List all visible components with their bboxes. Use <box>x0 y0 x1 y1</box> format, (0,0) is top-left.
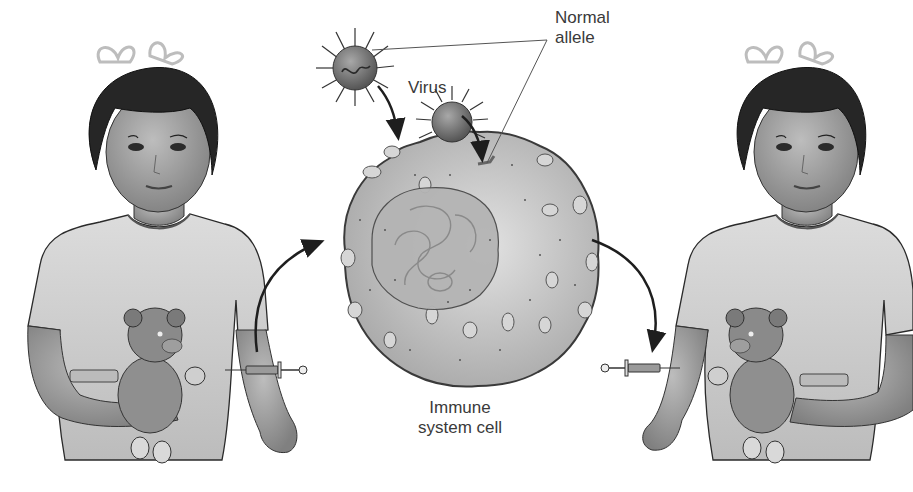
immune-system-cell <box>341 131 598 386</box>
immune-cell-label-line-1: Immune <box>400 398 520 417</box>
gene-therapy-diagram: Virus Normal allele Immune system cell <box>0 0 913 492</box>
right-child-bow-icon <box>800 43 833 64</box>
arrow-virus-to-cell <box>378 86 398 136</box>
right-child-bow-icon <box>746 47 782 62</box>
nucleus <box>372 188 498 310</box>
arrow-cell-to-child <box>592 240 656 348</box>
virus-free <box>316 28 394 106</box>
normal-allele-label-line-2: allele <box>555 28 595 47</box>
left-child-bow-icon <box>98 47 134 62</box>
virus-label: Virus <box>408 78 446 97</box>
right-syringe-icon <box>601 360 680 376</box>
immune-cell-label-line-2: system cell <box>400 418 520 437</box>
left-child-illustration <box>28 43 307 463</box>
right-child-illustration <box>601 43 913 463</box>
normal-allele-label-line-1: Normal <box>555 8 610 27</box>
left-child-bow-icon <box>150 43 183 64</box>
